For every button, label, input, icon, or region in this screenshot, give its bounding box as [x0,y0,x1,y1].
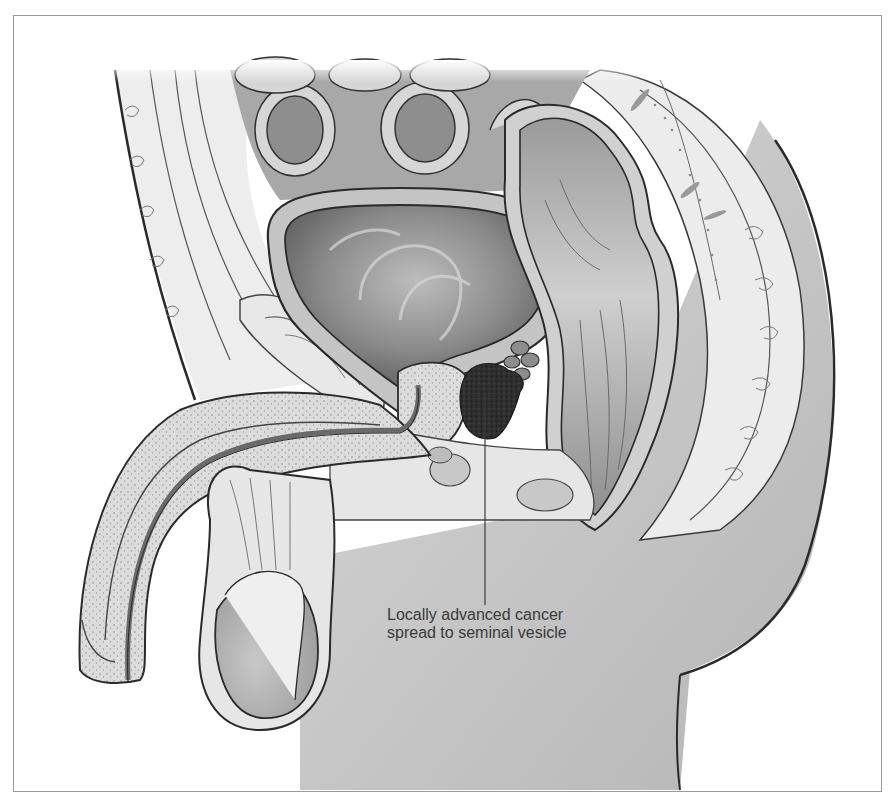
tumor-seminal-vesicle [460,364,523,439]
anatomy-illustration [0,0,895,808]
callout-label: Locally advanced cancer spread to semina… [387,606,627,642]
bulbospongiosus [517,479,573,511]
callout-line-1: Locally advanced cancer [387,606,627,624]
top-fade [100,60,800,82]
callout-line-2: spread to seminal vesicle [387,624,627,642]
scrotum [199,467,334,730]
